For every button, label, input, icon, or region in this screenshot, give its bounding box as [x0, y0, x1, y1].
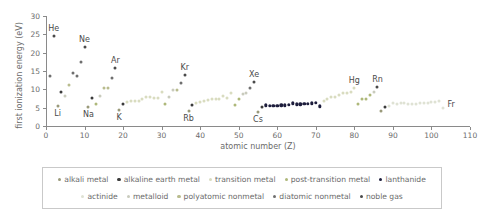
data-point [442, 107, 445, 110]
data-point [330, 96, 333, 99]
legend-label: transition metal [215, 175, 275, 184]
data-point [426, 101, 429, 104]
x-tick-mark [431, 127, 432, 130]
legend-label: post-transition metal [291, 175, 371, 184]
element-label-rb: Rb [183, 114, 194, 123]
data-point [241, 93, 244, 96]
x-tick-label: 70 [311, 131, 321, 140]
data-point [395, 103, 398, 106]
data-point [230, 92, 233, 95]
chart-root: 0102030405060708090100110 051015202530 H… [0, 0, 484, 220]
data-point [257, 110, 260, 113]
data-point [191, 104, 194, 107]
legend-item-alkali[interactable]: alkali metal [58, 175, 108, 184]
data-point [237, 98, 240, 101]
legend-label: actinide [87, 192, 117, 201]
data-point [345, 92, 348, 95]
legend-swatch-icon [127, 195, 130, 198]
legend-item-actinide[interactable]: actinide [81, 192, 118, 201]
element-label-xe: Xe [249, 70, 259, 79]
legend-swatch-icon [285, 178, 288, 181]
legend-item-noble[interactable]: noble gas [360, 192, 403, 201]
x-tick-mark [239, 127, 240, 130]
data-point [75, 75, 78, 78]
data-point [388, 105, 391, 108]
legend-swatch-icon [360, 195, 363, 198]
y-axis-title: first ionization energy (eV) [15, 16, 24, 136]
data-point [176, 89, 179, 92]
data-point [376, 85, 379, 88]
legend-item-diatomic[interactable]: diatomic nonmetal [273, 192, 351, 201]
data-point [357, 102, 360, 105]
legend-swatch-icon [379, 178, 382, 181]
x-tick-label: 60 [272, 131, 282, 140]
legend-row-1: alkali metalalkaline earth metaltransiti… [49, 171, 435, 188]
legend-item-lanthanide[interactable]: lanthanide [379, 175, 426, 184]
data-point [415, 103, 418, 106]
legend-item-alkaline[interactable]: alkaline earth metal [117, 175, 199, 184]
legend-swatch-icon [209, 178, 212, 181]
data-point [422, 101, 425, 104]
legend-swatch-icon [117, 178, 120, 181]
data-point [183, 73, 186, 76]
x-tick-mark [123, 127, 124, 130]
legend-label: noble gas [366, 192, 403, 201]
data-point [106, 86, 109, 89]
x-tick-mark [200, 127, 201, 130]
legend-swatch-icon [58, 178, 61, 181]
legend-item-polyatomic[interactable]: polyatomic nonmetal [177, 192, 264, 201]
x-tick-mark [46, 127, 47, 130]
data-point [172, 89, 175, 92]
data-point [214, 97, 217, 100]
data-point [164, 103, 167, 106]
legend: alkali metalalkaline earth metaltransiti… [42, 167, 442, 209]
data-point [56, 105, 59, 108]
data-point [438, 100, 441, 103]
legend-item-metalloid[interactable]: metalloid [127, 192, 169, 201]
data-point [156, 96, 159, 99]
scatter-plot-area: 0102030405060708090100110 051015202530 H… [0, 0, 484, 158]
data-point [98, 94, 101, 97]
x-tick-mark [354, 127, 355, 130]
x-tick-label: 30 [157, 131, 167, 140]
legend-item-post-transition[interactable]: post-transition metal [285, 175, 371, 184]
data-point [110, 77, 113, 80]
x-tick-label: 10 [80, 131, 90, 140]
data-point [95, 103, 98, 106]
x-tick-mark [277, 127, 278, 130]
data-point [83, 45, 86, 48]
y-tick-mark [43, 16, 46, 17]
data-point [407, 103, 410, 106]
data-point [222, 94, 225, 97]
data-point [168, 96, 171, 99]
y-tick-mark [43, 108, 46, 109]
legend-swatch-icon [273, 195, 276, 198]
element-label-cs: Cs [253, 115, 263, 124]
x-tick-label: 90 [388, 131, 398, 140]
data-point [380, 109, 383, 112]
x-tick-label: 110 [463, 131, 477, 140]
data-point [206, 98, 209, 101]
data-point [364, 98, 367, 101]
data-point [133, 100, 136, 103]
element-label-ne: Ne [79, 35, 90, 44]
legend-label: diatomic nonmetal [279, 192, 350, 201]
data-point [411, 103, 414, 106]
legend-item-transition[interactable]: transition metal [209, 175, 276, 184]
data-point [64, 94, 67, 97]
legend-label: lanthanide [385, 175, 425, 184]
data-point [118, 109, 121, 112]
x-tick-label: 0 [44, 131, 49, 140]
data-point [233, 103, 236, 106]
x-tick-label: 100 [424, 131, 438, 140]
data-point [226, 97, 229, 100]
data-point [129, 100, 132, 103]
x-tick-label: 40 [195, 131, 205, 140]
data-point [52, 34, 55, 37]
data-point [218, 97, 221, 100]
element-label-ar: Ar [111, 56, 120, 65]
element-label-li: Li [54, 109, 61, 118]
x-tick-label: 80 [350, 131, 360, 140]
x-tick-mark [85, 127, 86, 130]
data-point [203, 100, 206, 103]
